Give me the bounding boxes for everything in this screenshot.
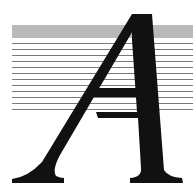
drop-cap-illustration: A (0, 0, 193, 194)
letter-a-glyph (0, 0, 193, 194)
